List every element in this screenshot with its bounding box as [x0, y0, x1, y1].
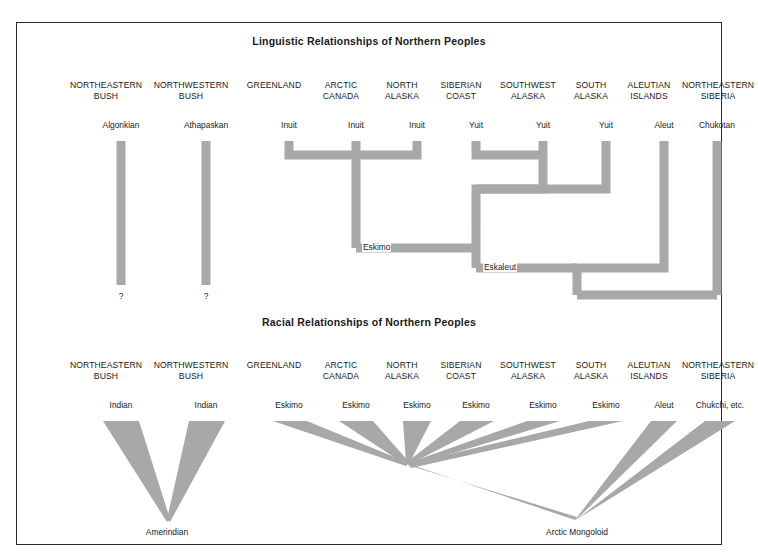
- racial-node-arctic-mongoloid: Arctic Mongoloid: [546, 527, 608, 537]
- branch-yuit-internal: [476, 155, 543, 189]
- branch-yuit-siberian-coast: [476, 141, 543, 155]
- branch-aleut: [577, 141, 664, 295]
- figure-frame: Linguistic Relationships of Northern Peo…: [16, 22, 722, 545]
- linguistic-node-eskaleut: Eskaleut: [483, 262, 517, 272]
- branch-inuit-greenland: [289, 141, 356, 155]
- branch-inuit-north-alaska: [356, 141, 417, 248]
- wedge-eskimo-to-arctic-mongoloid: [406, 463, 577, 520]
- racial-panel: Racial Relationships of Northern Peoples…: [17, 315, 721, 546]
- racial-fan-diagram: [17, 315, 723, 546]
- linguistic-unknown-marker-athapaskan: ?: [204, 291, 209, 301]
- wedge-aleut: [575, 421, 677, 520]
- wedge-indian-northwestern: [167, 421, 225, 522]
- linguistic-unknown-marker-algonkian: ?: [119, 291, 124, 301]
- linguistic-cladogram: [17, 23, 723, 293]
- wedge-indian-northeastern: [103, 421, 170, 522]
- linguistic-node-eskimo: Eskimo: [362, 242, 391, 252]
- racial-node-amerindian: Amerindian: [146, 527, 188, 537]
